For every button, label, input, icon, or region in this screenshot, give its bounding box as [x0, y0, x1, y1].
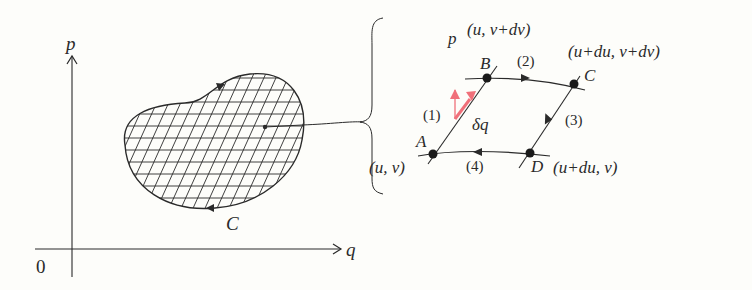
p-axis-label: p [66, 34, 76, 53]
q-axis-label: q [346, 240, 356, 259]
vertex-a [429, 150, 438, 159]
point-c-label: C [584, 67, 595, 84]
edge-3-label: (3) [565, 113, 583, 128]
contour-arrow-bottom-icon [206, 204, 214, 212]
point-d-coords: (u+du, v) [553, 159, 617, 176]
phase-space-diagram: p q 0 C p (u, v+dv) B (2) (u+du, v+dv) C… [0, 0, 752, 290]
edge-1-label: (1) [423, 108, 441, 123]
edge-2-label: (2) [517, 54, 535, 69]
momentum-p-label: p [448, 30, 457, 47]
displacement-vector-arrow-icon [466, 91, 476, 101]
cell-parallelogram [418, 66, 585, 168]
curve-c-label: C [226, 214, 239, 233]
displacement-vector-shaft [455, 99, 470, 119]
vertex-b [483, 74, 492, 83]
edge-4-arrow-icon [473, 148, 482, 156]
hatched-region [70, 60, 356, 215]
point-b-coords: (u, v+dv) [467, 21, 530, 38]
edge-2-arrow-icon [521, 74, 530, 82]
point-a-label: A [416, 133, 426, 150]
origin-label: 0 [36, 257, 46, 276]
edge-4-label: (4) [466, 159, 484, 174]
delta-q-label: δq [472, 116, 488, 133]
point-c-coords: (u+du, v+dv) [568, 43, 660, 60]
point-a-coords: (u, v) [369, 159, 405, 176]
vertex-c [570, 80, 579, 89]
point-d-label: D [531, 158, 543, 175]
point-b-label: B [480, 55, 490, 72]
